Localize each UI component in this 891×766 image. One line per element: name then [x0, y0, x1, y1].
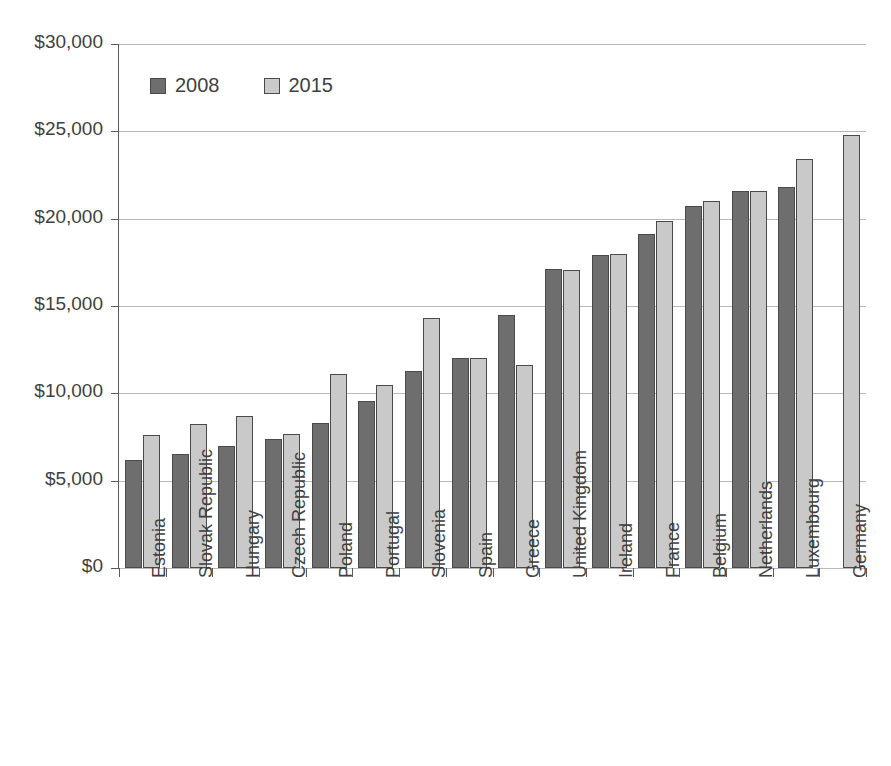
x-axis-label: Luxembourg	[803, 478, 824, 578]
y-axis-label: $25,000	[0, 118, 103, 140]
bar-2008-czech-republic	[265, 439, 282, 568]
x-axis-tick	[119, 568, 120, 577]
x-axis-tick	[212, 568, 213, 577]
x-axis-label: Ireland	[616, 523, 637, 578]
bar-2008-hungary	[218, 446, 235, 568]
x-axis-tick	[493, 568, 494, 577]
x-axis-tick	[773, 568, 774, 577]
x-axis-label: Germany	[850, 504, 871, 578]
x-axis-tick	[446, 568, 447, 577]
chart-legend: 2008 2015	[150, 74, 333, 97]
bar-chart: $0$5,000$10,000$15,000$20,000$25,000$30,…	[0, 0, 891, 766]
gridline	[119, 131, 866, 132]
y-axis-label: $20,000	[0, 206, 103, 228]
y-axis-label: $10,000	[0, 380, 103, 402]
bar-2008-belgium	[685, 206, 702, 568]
plot-area	[119, 44, 866, 568]
x-axis-tick	[819, 568, 820, 577]
legend-item-2008: 2008	[150, 74, 220, 97]
x-axis-tick	[726, 568, 727, 577]
x-axis-label: Hungary	[243, 510, 264, 578]
y-axis-label: $15,000	[0, 293, 103, 315]
x-axis-label: Slovak Republic	[196, 449, 217, 578]
legend-label-2008: 2008	[175, 74, 220, 97]
x-axis-label: Poland	[336, 522, 357, 578]
x-axis-tick	[586, 568, 587, 577]
y-axis-label: $5,000	[0, 468, 103, 490]
x-axis-label: Czech Republic	[289, 452, 310, 578]
x-axis-tick	[306, 568, 307, 577]
bar-2008-estonia	[125, 460, 142, 568]
bar-2008-slovenia	[405, 371, 422, 568]
x-axis-label: Netherlands	[756, 481, 777, 578]
x-axis-tick	[352, 568, 353, 577]
bar-2015-ireland	[610, 254, 627, 568]
x-axis-label: Greece	[523, 519, 544, 578]
x-axis-tick	[866, 568, 867, 577]
x-axis-tick	[679, 568, 680, 577]
y-axis-label: $0	[0, 555, 103, 577]
y-axis-label: $30,000	[0, 31, 103, 53]
x-axis-label: Spain	[476, 532, 497, 578]
bar-2008-united-kingdom	[545, 269, 562, 568]
x-axis-label: France	[663, 522, 684, 578]
x-axis-label: Estonia	[149, 518, 170, 578]
bar-2008-luxembourg	[778, 187, 795, 568]
legend-swatch-2015-icon	[264, 78, 280, 94]
legend-swatch-2008-icon	[150, 78, 166, 94]
bar-2008-slovak-republic	[172, 454, 189, 568]
x-axis-label: United Kingdom	[570, 450, 591, 578]
bar-2008-spain	[452, 358, 469, 568]
bar-2008-greece	[498, 315, 515, 568]
x-axis-tick	[259, 568, 260, 577]
x-axis-tick	[399, 568, 400, 577]
legend-label-2015: 2015	[289, 74, 334, 97]
bar-2015-france	[656, 221, 673, 568]
bar-2008-netherlands	[732, 191, 749, 568]
x-axis-tick	[633, 568, 634, 577]
x-axis-label: Portugal	[383, 511, 404, 578]
bar-2008-ireland	[592, 255, 609, 568]
x-axis-label: Slovenia	[429, 509, 450, 578]
x-axis-label: Belgium	[710, 513, 731, 578]
x-axis-tick	[539, 568, 540, 577]
x-axis-tick	[166, 568, 167, 577]
bar-2008-portugal	[358, 401, 375, 568]
legend-item-2015: 2015	[264, 74, 334, 97]
bar-2008-france	[638, 234, 655, 568]
gridline	[119, 44, 866, 45]
bar-2008-poland	[312, 423, 329, 568]
